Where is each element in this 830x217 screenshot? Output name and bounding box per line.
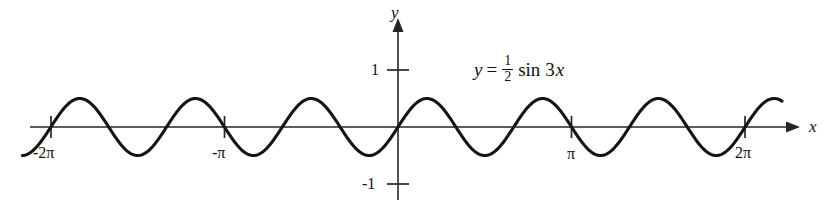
y-tick-label-one: 1 (371, 62, 379, 78)
x-axis-label: x (809, 118, 817, 135)
equation-lhs: y (474, 60, 482, 79)
equation-annotation: y = 1 2 sin 3 x (474, 54, 564, 84)
equation-argument-coefficient: 3 (545, 60, 555, 79)
x-tick-label-pi: π (567, 146, 575, 162)
plot-canvas (0, 0, 830, 217)
y-tick-label-neg-one: -1 (362, 176, 375, 192)
fraction-denominator: 2 (502, 70, 513, 85)
x-axis-arrow-icon (786, 122, 800, 133)
x-tick-label-neg-pi: -π (212, 145, 225, 161)
figure-container: y x 1 -1 -2π -π π 2π y = 1 2 sin 3 x (0, 0, 830, 217)
equation-coefficient-fraction: 1 2 (502, 54, 513, 84)
equation-operator: = (486, 60, 497, 79)
fraction-numerator: 1 (502, 54, 513, 69)
y-axis-label: y (391, 4, 399, 21)
equation-function-name: sin (518, 60, 540, 79)
x-tick-label-neg-2pi: -2π (33, 145, 54, 161)
equation-argument-variable: x (556, 60, 564, 79)
x-tick-label-2pi: 2π (735, 145, 751, 161)
